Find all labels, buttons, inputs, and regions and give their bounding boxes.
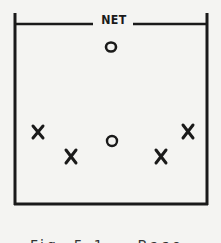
- player-o-center: [107, 136, 117, 146]
- player-x-left-mid: [66, 150, 76, 163]
- player-o-front: [106, 43, 116, 52]
- player-x-right-back: [183, 125, 193, 138]
- player-x-right-mid: [156, 150, 166, 163]
- court-diagram: [0, 0, 221, 243]
- net-label: NET: [100, 12, 129, 27]
- figure-caption: Fig. 5-1 — Base Formation: [30, 237, 221, 243]
- player-x-left-back: [33, 126, 43, 138]
